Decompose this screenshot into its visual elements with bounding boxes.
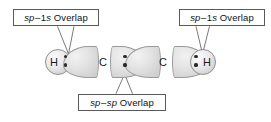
electron-dot [194, 55, 197, 58]
callout-left-orbital-a: sp [24, 13, 34, 23]
callout-sp-1s-left: sp–1s Overlap [13, 9, 99, 26]
callout-left-word: Overlap [54, 13, 88, 23]
callout-sp-sp: sp–sp Overlap [78, 94, 166, 111]
callout-right-orbital-b-letter: s [212, 13, 217, 23]
electron-pair-ch-left [64, 55, 68, 70]
callout-bottom-orbital-a: sp [90, 98, 100, 108]
electron-dot [123, 63, 126, 66]
callout-left-orbital-b-letter: s [46, 13, 51, 23]
callout-sp-1s-right: sp–1s Overlap [179, 9, 265, 26]
callout-right-orbital-a: sp [190, 13, 200, 23]
orbital-overlap-figure: H C C H sp–1s Overlap [0, 0, 271, 122]
electron-dot [64, 63, 67, 66]
electron-pair-cc [123, 55, 127, 70]
molecule-diagram: H C C H [0, 44, 271, 84]
sp-hybrid-orbital-c1-left [63, 46, 99, 78]
electron-dot [194, 63, 197, 66]
electron-pair-ch-right [194, 55, 198, 70]
atom-label-h-right: H [203, 57, 211, 68]
atom-label-c-left: C [99, 57, 107, 68]
callout-bottom-orbital-b: sp [107, 98, 117, 108]
callout-bottom-word: Overlap [120, 98, 154, 108]
electron-dot [123, 55, 126, 58]
electron-dot [64, 55, 67, 58]
callout-right-word: Overlap [220, 13, 254, 23]
atom-label-h-left: H [50, 57, 58, 68]
atom-label-c-right: C [159, 57, 167, 68]
